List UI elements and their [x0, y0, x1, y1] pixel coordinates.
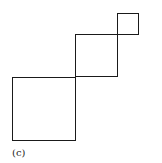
large-square — [13, 78, 76, 141]
medium-square — [76, 35, 118, 77]
figure-label: (c) — [12, 148, 25, 158]
squares-diagram — [0, 0, 162, 163]
small-square — [118, 14, 139, 35]
